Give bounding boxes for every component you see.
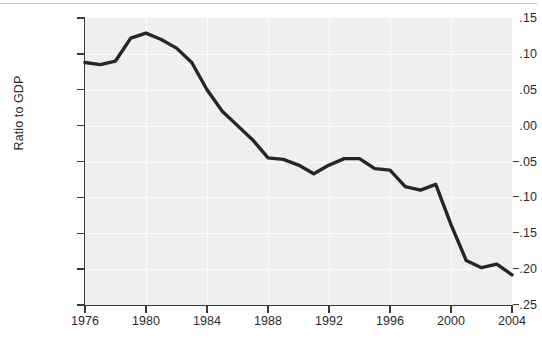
series-line-ratio-to-gdp xyxy=(85,33,512,275)
caption-remnant xyxy=(8,337,529,344)
